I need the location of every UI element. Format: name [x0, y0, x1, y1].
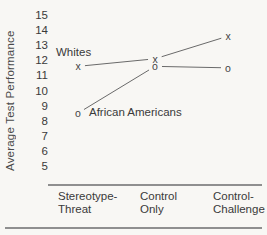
x-category-label: Stereotype-Threat: [58, 190, 117, 216]
data-point-marker: x: [225, 31, 230, 41]
series-line-segment: [162, 66, 221, 67]
data-point-marker: o: [152, 61, 158, 71]
x-category-label: Control-Challenge: [213, 190, 265, 216]
data-point-marker: o: [225, 62, 231, 72]
series-line-segment: [85, 59, 148, 65]
data-point-marker: x: [75, 61, 80, 71]
stereotype-threat-line-chart: Average Test Performance 151413121110987…: [0, 0, 267, 235]
series-line-segment: [84, 70, 149, 110]
bottom-rule: [5, 227, 262, 229]
x-category-label: ControlOnly: [140, 190, 177, 216]
series-line-segment: [162, 38, 222, 57]
series-label-african-americans: African Americans: [89, 106, 182, 118]
x-axis-line: [48, 184, 262, 186]
data-point-marker: o: [75, 108, 81, 118]
series-label-whites: Whites: [56, 46, 91, 58]
